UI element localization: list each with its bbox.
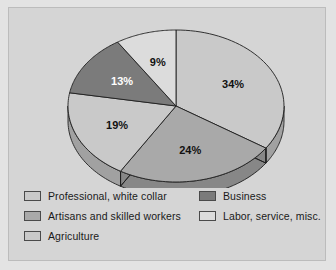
- figure-canvas: 34%24%19%13%9% Professional, white colla…: [0, 0, 336, 270]
- legend-item-labor-service-misc[interactable]: Labor, service, misc.: [199, 207, 319, 225]
- chart-plate: 34%24%19%13%9% Professional, white colla…: [8, 7, 326, 261]
- pie-label-24: 24%: [179, 144, 201, 156]
- legend-label-agriculture: Agriculture: [48, 230, 99, 242]
- legend-swatch-professional-white-collar: [24, 191, 41, 201]
- legend-item-professional-white-collar[interactable]: Professional, white collar: [24, 187, 194, 205]
- legend-label-artisans-and-skilled-workers: Artisans and skilled workers: [48, 210, 181, 222]
- legend-label-labor-service-misc: Labor, service, misc.: [223, 210, 321, 222]
- legend-column-left: Professional, white collar Artisans and …: [24, 187, 194, 247]
- pie-label-34: 34%: [222, 78, 244, 90]
- legend-item-agriculture[interactable]: Agriculture: [24, 227, 194, 245]
- chart-legend: Professional, white collar Artisans and …: [21, 187, 317, 253]
- pie-label-13: 13%: [111, 75, 133, 87]
- legend-item-business[interactable]: Business: [199, 187, 319, 205]
- pie-label-19: 19%: [106, 119, 128, 131]
- pie-slices-group: [68, 30, 284, 188]
- pie-chart-area: 34%24%19%13%9%: [9, 8, 327, 188]
- legend-column-right: Business Labor, service, misc.: [199, 187, 319, 227]
- legend-swatch-agriculture: [24, 231, 41, 241]
- pie-chart-svg: 34%24%19%13%9%: [9, 8, 327, 188]
- pie-label-9: 9%: [150, 56, 166, 68]
- legend-label-professional-white-collar: Professional, white collar: [48, 190, 167, 202]
- legend-swatch-business: [199, 191, 216, 201]
- legend-label-business: Business: [223, 190, 266, 202]
- legend-swatch-labor-service-misc: [199, 211, 216, 221]
- legend-swatch-artisans-and-skilled-workers: [24, 211, 41, 221]
- legend-item-artisans-and-skilled-workers[interactable]: Artisans and skilled workers: [24, 207, 194, 225]
